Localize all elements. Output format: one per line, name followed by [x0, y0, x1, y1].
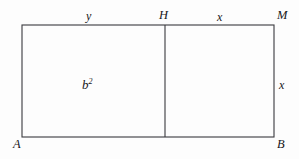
- point-label-m: M: [277, 9, 287, 22]
- segment-label-x-right: x: [279, 79, 284, 91]
- figure-canvas: [0, 0, 299, 159]
- outer-rectangle: [22, 25, 274, 137]
- segment-label-y: y: [86, 10, 91, 22]
- geometric-figure: y H x M x b2 A B: [0, 0, 299, 159]
- area-label-exponent: 2: [89, 77, 93, 86]
- point-label-a: A: [13, 138, 21, 151]
- area-label-b-squared: b2: [82, 78, 93, 91]
- point-label-b: B: [277, 138, 285, 151]
- segment-label-x-top: x: [217, 11, 222, 23]
- point-label-h: H: [159, 9, 168, 22]
